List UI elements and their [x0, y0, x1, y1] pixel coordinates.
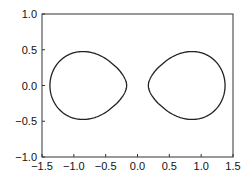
- x-tick-label: −1.0: [63, 160, 85, 172]
- x-tick-label: 0.0: [130, 160, 145, 172]
- x-tick-label: 1.5: [225, 160, 240, 172]
- x-tick-label: 0.5: [162, 160, 177, 172]
- y-tick-label: 1.0: [22, 8, 37, 20]
- curve-group: [50, 52, 225, 120]
- x-tick-label: 1.0: [194, 160, 209, 172]
- left-lobe-curve: [50, 52, 127, 120]
- y-tick-label: −1.0: [15, 151, 37, 163]
- y-tick-label: −0.5: [15, 115, 37, 127]
- plot-frame: [42, 14, 233, 157]
- y-axis-ticks: −1.0−0.50.00.51.0: [15, 8, 45, 163]
- y-tick-label: 0.0: [22, 80, 37, 92]
- x-tick-label: −0.5: [95, 160, 117, 172]
- right-lobe-curve: [148, 52, 225, 120]
- y-tick-label: 0.5: [22, 44, 37, 56]
- cassini-oval-chart: −1.5−1.0−0.50.00.51.01.5 −1.0−0.50.00.51…: [0, 0, 252, 184]
